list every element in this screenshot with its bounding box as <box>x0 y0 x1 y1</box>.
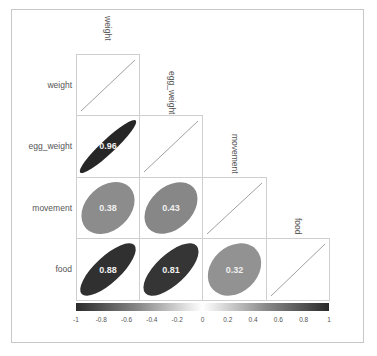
colorbar-tick: 1 <box>327 316 331 323</box>
colorbar-tick: -0.2 <box>172 316 183 323</box>
colorbar-tick: 0.6 <box>274 316 283 323</box>
colorbar-tick: 0.2 <box>223 316 232 323</box>
diagonal-line <box>207 183 262 234</box>
diagonal-line <box>271 244 325 296</box>
ellipse-layer <box>0 0 377 356</box>
colorbar <box>76 303 329 311</box>
value-label: 0.81 <box>162 265 180 275</box>
value-label: 0.32 <box>226 265 244 275</box>
colorbar-tick: 0 <box>201 316 205 323</box>
diagonal-line <box>81 60 135 111</box>
colorbar-tick: -0.8 <box>96 316 107 323</box>
colorbar-tick: -0.4 <box>146 316 157 323</box>
value-label: 0.88 <box>99 265 117 275</box>
colorbar-tick: -0.6 <box>121 316 132 323</box>
diagonal-line <box>144 121 198 172</box>
colorbar-tick: 0.8 <box>299 316 308 323</box>
value-label: 0.43 <box>162 203 180 213</box>
value-label: 0.38 <box>99 203 117 213</box>
value-label: 0.96 <box>99 141 117 151</box>
colorbar-tick: -1 <box>73 316 79 323</box>
colorbar-tick: 0.4 <box>249 316 258 323</box>
